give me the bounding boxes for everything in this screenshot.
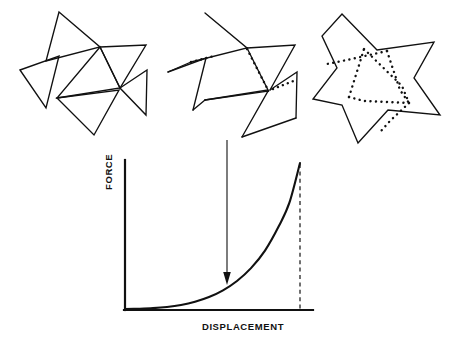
fold-dotted-3 [349, 97, 409, 103]
figure-root: FORCE DISPLACEMENT [0, 0, 454, 344]
chart-axes [124, 160, 313, 310]
figure-canvas: FORCE DISPLACEMENT [0, 0, 454, 344]
triangle-a [46, 12, 100, 61]
x-axis-label: DISPLACEMENT [202, 321, 284, 332]
force-displacement-curve [125, 163, 300, 309]
arm-left [168, 58, 206, 110]
stage-3-deployed-star [313, 14, 440, 143]
fold-dotted-5 [364, 49, 409, 103]
y-axis-label: FORCE [103, 154, 114, 190]
stage-1-collapsed-pinwheel [20, 12, 147, 135]
arm-top-left [191, 13, 247, 62]
triangle-e [57, 90, 119, 135]
arrow-head [223, 272, 231, 285]
triangle-f [20, 56, 59, 108]
stage-2-partially-deployed [168, 13, 297, 137]
fold-dotted-4 [349, 49, 364, 97]
triangle-c [120, 70, 147, 115]
triangle-d [57, 47, 120, 98]
edge-lowright-close [242, 118, 296, 137]
edge-left-close [168, 62, 191, 72]
fold-dotted-2 [387, 51, 409, 103]
downward-arrow [223, 140, 231, 285]
fold-dotted-6 [381, 103, 409, 131]
triangle-b [100, 45, 146, 88]
star-outline [313, 14, 440, 143]
fold-dotted-1 [327, 51, 387, 64]
arm-right [270, 72, 297, 118]
